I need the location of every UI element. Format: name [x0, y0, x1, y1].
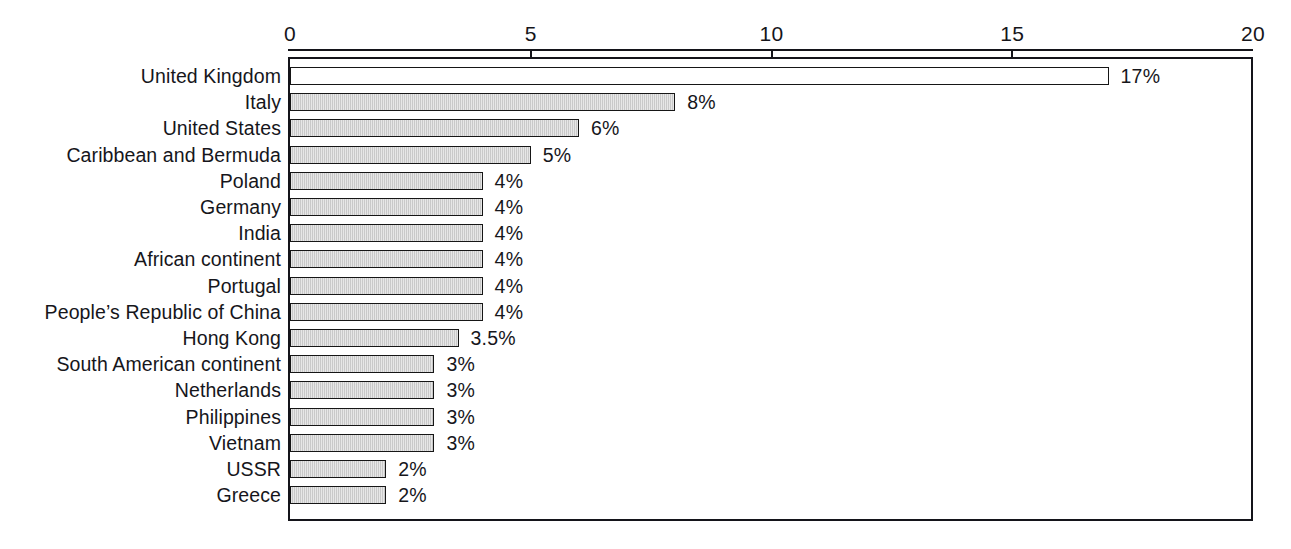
bar-chart: 05101520 United Kingdom17%Italy8%United … [0, 0, 1291, 549]
bar [290, 67, 1109, 85]
category-label: Vietnam [0, 430, 281, 456]
bar [290, 119, 579, 137]
bar-value-label: 8% [687, 89, 716, 115]
bar-row: USSR2% [0, 456, 1291, 482]
bar-value-label: 4% [495, 194, 524, 220]
category-label: African continent [0, 246, 281, 272]
bar [290, 224, 483, 242]
bar-row: United Kingdom17% [0, 63, 1291, 89]
category-label: Philippines [0, 404, 281, 430]
bar-row: Caribbean and Bermuda5% [0, 142, 1291, 168]
bar-value-label: 4% [495, 273, 524, 299]
bar-value-label: 4% [495, 299, 524, 325]
category-label: Germany [0, 194, 281, 220]
bar-value-label: 2% [398, 456, 427, 482]
bar [290, 93, 675, 111]
bar [290, 329, 459, 347]
bar-row: African continent4% [0, 246, 1291, 272]
bar-value-label: 4% [495, 246, 524, 272]
category-label: People’s Republic of China [0, 299, 281, 325]
category-label: Italy [0, 89, 281, 115]
bar-row: Italy8% [0, 89, 1291, 115]
bar-row: Vietnam3% [0, 430, 1291, 456]
bar-row: Hong Kong3.5% [0, 325, 1291, 351]
x-axis-tick-mark [530, 51, 532, 58]
x-axis-tick-label: 10 [760, 22, 784, 46]
bar-value-label: 5% [543, 142, 572, 168]
bar-value-label: 6% [591, 115, 620, 141]
category-label: Greece [0, 482, 281, 508]
bar-row: Poland4% [0, 168, 1291, 194]
x-axis-tick-mark [771, 51, 773, 58]
x-axis-tick-mark [1011, 51, 1013, 58]
bar-value-label: 4% [495, 168, 524, 194]
bar [290, 277, 483, 295]
bar [290, 198, 483, 216]
x-axis-tick-label: 0 [284, 22, 296, 46]
bar-value-label: 3.5% [471, 325, 516, 351]
bar [290, 146, 531, 164]
bar-value-label: 2% [398, 482, 427, 508]
category-label: USSR [0, 456, 281, 482]
category-label: Portugal [0, 273, 281, 299]
bar [290, 381, 434, 399]
category-label: Netherlands [0, 377, 281, 403]
category-label: India [0, 220, 281, 246]
bar [290, 486, 386, 504]
category-label: Hong Kong [0, 325, 281, 351]
x-axis-tick-label: 15 [1000, 22, 1024, 46]
bar-value-label: 3% [446, 351, 475, 377]
bar-row: Philippines3% [0, 404, 1291, 430]
category-label: South American continent [0, 351, 281, 377]
bar-row: Germany4% [0, 194, 1291, 220]
bar [290, 303, 483, 321]
bar-row: India4% [0, 220, 1291, 246]
bar [290, 355, 434, 373]
bar-value-label: 3% [446, 377, 475, 403]
bar [290, 250, 483, 268]
x-axis-tick-label: 5 [525, 22, 537, 46]
bar [290, 408, 434, 426]
category-label: Caribbean and Bermuda [0, 142, 281, 168]
bar-value-label: 3% [446, 404, 475, 430]
category-label: United States [0, 115, 281, 141]
bar [290, 434, 434, 452]
bar-rows: United Kingdom17%Italy8%United States6%C… [0, 57, 1291, 521]
bar [290, 460, 386, 478]
bar-value-label: 3% [446, 430, 475, 456]
category-label: United Kingdom [0, 63, 281, 89]
x-axis-tick-label: 20 [1241, 22, 1265, 46]
bar-row: South American continent3% [0, 351, 1291, 377]
bar-row: Netherlands3% [0, 377, 1291, 403]
bar-row: People’s Republic of China4% [0, 299, 1291, 325]
bar-value-label: 4% [495, 220, 524, 246]
x-axis-tick-labels: 05101520 [0, 22, 1291, 48]
bar-row: United States6% [0, 115, 1291, 141]
bar-row: Greece2% [0, 482, 1291, 508]
category-label: Poland [0, 168, 281, 194]
bar [290, 172, 483, 190]
bar-row: Portugal4% [0, 273, 1291, 299]
bar-value-label: 17% [1121, 63, 1161, 89]
